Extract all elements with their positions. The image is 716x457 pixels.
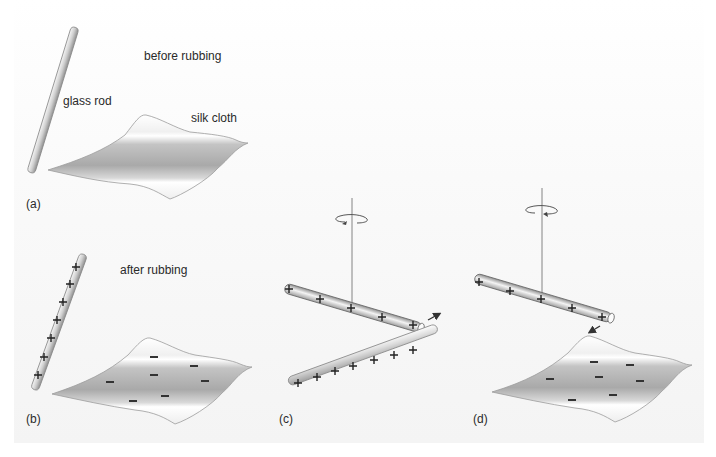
- charged-silk-cloth: [52, 338, 252, 424]
- caption-before-rubbing: before rubbing: [144, 49, 221, 63]
- held-rod-positive-charges: [294, 346, 417, 387]
- panel-label-a: (a): [26, 197, 41, 211]
- held-charged-rod: [287, 324, 439, 386]
- panel-d: [474, 188, 692, 422]
- electrostatics-diagram: [0, 0, 716, 457]
- attraction-arrow-icon: [590, 326, 600, 332]
- caption-after-rubbing: after rubbing: [120, 263, 187, 277]
- label-silk-cloth: silk cloth: [191, 111, 237, 125]
- charged-glass-rod: [31, 253, 88, 391]
- panel-b: [31, 253, 252, 424]
- panel-label-b: (b): [26, 412, 41, 426]
- panel-label-d: (d): [473, 412, 488, 426]
- silk-cloth: [48, 115, 248, 199]
- charged-silk-cloth: [492, 336, 692, 422]
- repulsion-arrow-icon: [428, 314, 439, 320]
- panel-c: [284, 198, 439, 387]
- label-glass-rod: glass rod: [63, 94, 112, 108]
- panel-label-c: (c): [279, 412, 293, 426]
